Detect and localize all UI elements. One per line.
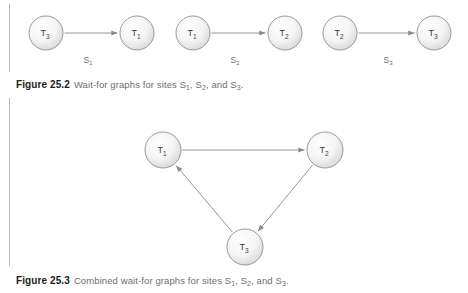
graph-node-t3: T3 (227, 229, 263, 265)
figure-25-3-block: T1T2T3 (0, 98, 468, 293)
graph-edge-arrow (212, 30, 266, 35)
figure-25-2-caption-label: Figure 25.2 (16, 79, 70, 90)
graph-edge-arrow (359, 30, 415, 35)
figure-25-3-caption-text: Combined wait-for graphs for sites S1, S… (74, 275, 289, 286)
graph-edge-arrow (258, 165, 313, 231)
graph-edge-arrow (65, 30, 118, 35)
graph-node-t2: T2 (307, 132, 343, 168)
figure-25-2-caption: Figure 25.2Wait-for graphs for sites S1,… (16, 79, 244, 92)
combined-wait-for-graph: T1T2T3 (0, 98, 468, 273)
figure-25-3-caption: Figure 25.3Combined wait-for graphs for … (16, 275, 289, 288)
graph-node-t1: T1 (145, 132, 181, 168)
figure-25-3-caption-label: Figure 25.3 (16, 275, 70, 286)
graph-edge-arrow (183, 147, 305, 152)
graph-edge-arrow (176, 166, 232, 232)
graph-node-t1: T1 (176, 16, 210, 50)
figure-25-2-caption-text: Wait-for graphs for sites S1, S2, and S3… (74, 79, 244, 90)
graph-node-t1: T1 (120, 16, 154, 50)
graph-node-t2: T2 (323, 16, 357, 50)
graph-node-t2: T2 (268, 16, 302, 50)
wait-for-graphs-row: T3T1S1T1T2S2T2T3S3 (0, 0, 468, 76)
graph-node-t3: T3 (417, 16, 451, 50)
figure-page: T3T1S1T1T2S2T2T3S3 Figure 25.2Wait-for g… (0, 0, 468, 293)
graph-node-t3: T3 (29, 16, 63, 50)
site-label-s3: S3 (383, 55, 393, 66)
site-label-s1: S1 (83, 55, 93, 66)
site-label-s2: S2 (230, 55, 240, 66)
